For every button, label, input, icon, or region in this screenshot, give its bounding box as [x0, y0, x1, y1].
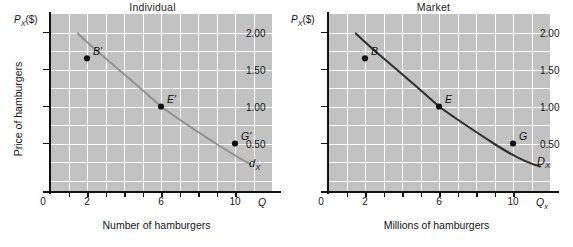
y-tick — [43, 32, 50, 34]
x-tick-label: 10 — [229, 196, 240, 207]
demand-curve-figure: Individual Price of hamburgers PX($) — [0, 0, 573, 247]
y-tick-label: 1.00 — [246, 101, 287, 112]
y-axis-line-market — [327, 12, 329, 194]
curve-label-dx-market: DX — [537, 155, 550, 170]
y-axis-title-individual: Price of hamburgers — [12, 49, 24, 169]
curve-label-dx: dX — [249, 157, 260, 172]
panel-title-individual: Individual — [0, 1, 287, 13]
x-tick — [402, 191, 404, 197]
x-tick — [495, 191, 497, 197]
panel-individual: Individual Price of hamburgers PX($) — [0, 0, 287, 247]
x-axis-end-label-individual: Q — [258, 196, 266, 208]
y-tick — [43, 69, 50, 71]
y-tick-label: 0.50 — [540, 138, 573, 149]
x-axis-title-individual: Number of hamburgers — [0, 219, 287, 231]
point-label-b-prime: B′ — [93, 45, 102, 57]
point-label-b: B — [371, 45, 378, 57]
point-label-e: E — [445, 93, 452, 105]
data-points-individual — [50, 14, 272, 191]
x-tick — [143, 191, 145, 197]
x-tick-label: 6 — [436, 196, 442, 207]
y-tick-label: 0.50 — [246, 138, 287, 149]
y-axis-symbol-market: PX($) — [291, 14, 315, 28]
y-tick-label: 2.00 — [540, 27, 573, 38]
x-tick — [180, 191, 182, 197]
y-axis-symbol-individual: PX($) — [14, 14, 38, 28]
y-axis-line-individual — [49, 12, 51, 194]
y-tick — [321, 143, 328, 145]
x-tick-label: 2 — [362, 196, 368, 207]
x-axis-end-label-market: Qx — [536, 196, 548, 211]
panel-market: Market PX($) — [286, 0, 573, 247]
x-tick — [106, 191, 108, 197]
x-tick-label: 0 — [40, 196, 46, 207]
y-tick — [43, 143, 50, 145]
y-tick — [321, 32, 328, 34]
y-tick — [43, 106, 50, 108]
y-tick-label: 1.50 — [246, 64, 287, 75]
x-tick-label: 6 — [158, 196, 164, 207]
panel-title-market: Market — [286, 1, 573, 13]
y-tick-label: 1.50 — [540, 64, 573, 75]
x-axis-title-market: Millions of hamburgers — [286, 219, 573, 231]
x-tick-label: 0 — [318, 196, 324, 207]
x-tick — [384, 191, 386, 197]
point-label-e-prime: E′ — [167, 93, 176, 105]
plot-area-market: B E G DX — [328, 14, 550, 191]
x-tick — [458, 191, 460, 197]
x-tick-label: 10 — [507, 196, 518, 207]
x-tick — [421, 191, 423, 197]
point-label-g: G — [519, 130, 527, 142]
y-tick-label: 1.00 — [540, 101, 573, 112]
x-tick — [198, 191, 200, 197]
x-tick — [69, 191, 71, 197]
y-tick-label: 2.00 — [246, 27, 287, 38]
x-tick — [476, 191, 478, 197]
y-tick — [321, 106, 328, 108]
x-tick — [347, 191, 349, 197]
y-tick — [321, 69, 328, 71]
x-tick-label: 2 — [84, 196, 90, 207]
x-tick — [217, 191, 219, 197]
data-points-market — [328, 14, 550, 191]
x-tick — [124, 191, 126, 197]
plot-area-individual: B′ E′ G′ dX — [50, 14, 272, 191]
